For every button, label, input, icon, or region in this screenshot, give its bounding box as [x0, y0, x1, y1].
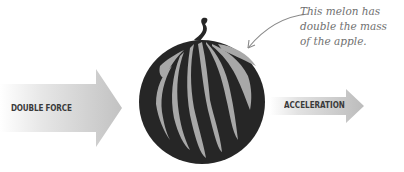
annotation-line: double the mass	[300, 19, 404, 34]
mass-annotation: This melon has double the mass of the ap…	[300, 4, 404, 49]
force-diagram: DOUBLE FORCE This melon has double the m…	[0, 0, 404, 172]
annotation-line: This melon has	[300, 4, 404, 19]
double-force-label: DOUBLE FORCE	[11, 102, 72, 113]
acceleration-label: ACCELERATION	[284, 100, 345, 110]
annotation-line: of the apple.	[300, 34, 404, 49]
